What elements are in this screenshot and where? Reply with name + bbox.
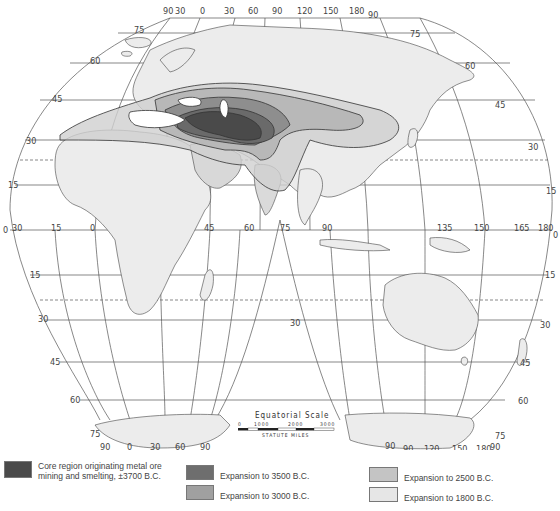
svg-text:0: 0 (90, 223, 95, 233)
africa (55, 130, 211, 314)
australia (383, 273, 478, 350)
legend-swatch-3000 (186, 485, 214, 500)
legend-item-core: Core region originating metal ore mining… (4, 461, 162, 481)
svg-text:60: 60 (465, 61, 475, 71)
svg-text:60: 60 (518, 396, 528, 406)
svg-text:90: 90 (200, 442, 210, 450)
svg-text:45: 45 (520, 358, 530, 368)
svg-text:15: 15 (8, 180, 18, 190)
legend: Core region originating metal ore mining… (0, 450, 560, 511)
svg-text:30: 30 (175, 6, 185, 16)
svg-text:0: 0 (127, 442, 132, 450)
legend-swatch-core (4, 461, 32, 478)
svg-text:2000: 2000 (288, 421, 303, 427)
svg-text:30: 30 (12, 223, 22, 233)
landmasses (55, 25, 527, 449)
svg-text:45: 45 (495, 100, 505, 110)
legend-label-1800: Expansion to 1800 B.C. (404, 493, 493, 503)
svg-text:30: 30 (528, 142, 538, 152)
svg-text:90: 90 (322, 223, 332, 233)
svg-text:45: 45 (50, 357, 60, 367)
legend-label-3000: Expansion to 3000 B.C. (220, 491, 309, 501)
legend-label-3500: Expansion to 3500 B.C. (220, 471, 309, 481)
svg-text:45: 45 (52, 94, 62, 104)
svg-text:60: 60 (244, 223, 254, 233)
svg-text:0: 0 (238, 421, 242, 427)
svg-text:45: 45 (204, 223, 214, 233)
svg-text:3000: 3000 (320, 421, 335, 427)
svg-text:150: 150 (323, 6, 338, 16)
svg-text:90: 90 (490, 442, 500, 450)
legend-item-1800: Expansion to 1800 B.C. (369, 487, 493, 503)
svg-text:75: 75 (410, 29, 420, 39)
svg-text:60: 60 (248, 6, 258, 16)
svg-text:75: 75 (495, 431, 505, 441)
legend-item-2500: Expansion to 2500 B.C. (369, 467, 493, 483)
svg-text:30: 30 (224, 6, 234, 16)
svg-text:180: 180 (349, 6, 364, 16)
svg-text:90: 90 (368, 10, 378, 20)
legend-swatch-2500 (369, 467, 398, 482)
svg-text:1000: 1000 (254, 421, 269, 427)
svg-text:Equatorial Scale: Equatorial Scale (255, 411, 329, 420)
svg-text:30: 30 (150, 442, 160, 450)
svg-text:15: 15 (546, 186, 556, 196)
svg-text:60: 60 (90, 56, 100, 66)
svg-text:30: 30 (540, 320, 550, 330)
svg-text:75: 75 (90, 429, 100, 439)
svg-text:90: 90 (100, 442, 110, 450)
svg-text:150: 150 (474, 223, 489, 233)
svg-text:165: 165 (514, 223, 529, 233)
legend-item-3500: Expansion to 3500 B.C. (186, 465, 309, 481)
svg-text:30: 30 (38, 314, 48, 324)
svg-text:30: 30 (26, 136, 36, 146)
svg-text:0: 0 (200, 6, 205, 16)
legend-item-3000: Expansion to 3000 B.C. (186, 485, 309, 501)
svg-text:120: 120 (297, 6, 312, 16)
svg-text:60: 60 (175, 442, 185, 450)
svg-text:90: 90 (163, 6, 173, 16)
svg-text:180: 180 (538, 223, 553, 233)
svg-text:15: 15 (545, 270, 555, 280)
svg-text:15: 15 (30, 270, 40, 280)
scale-bar: Equatorial Scale 0 1000 2000 3000 STATUT… (238, 411, 335, 438)
legend-swatch-1800 (369, 487, 398, 502)
svg-text:135: 135 (437, 223, 452, 233)
world-map: 90 30 0 30 60 90 120 150 180 90 75 60 45… (0, 0, 560, 450)
legend-label-core-line2: mining and smelting, ±3700 B.C. (38, 471, 162, 481)
svg-text:75: 75 (280, 223, 290, 233)
svg-text:15: 15 (51, 223, 61, 233)
legend-label-core-line1: Core region originating metal ore (38, 461, 162, 471)
legend-swatch-3500 (186, 465, 214, 480)
svg-text:STATUTE MILES: STATUTE MILES (262, 432, 309, 438)
svg-text:0: 0 (553, 230, 558, 240)
svg-text:90: 90 (385, 441, 395, 450)
svg-text:30: 30 (290, 318, 300, 328)
svg-text:90: 90 (272, 6, 282, 16)
legend-label-2500: Expansion to 2500 B.C. (404, 473, 493, 483)
svg-text:60: 60 (70, 395, 80, 405)
svg-text:75: 75 (134, 25, 144, 35)
svg-text:0: 0 (3, 225, 8, 235)
